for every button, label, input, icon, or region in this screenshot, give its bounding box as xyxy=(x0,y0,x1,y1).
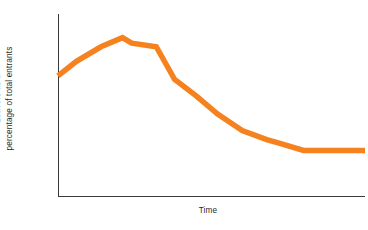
chart-container: Leavers as a percentage of total entrant… xyxy=(0,0,368,230)
x-axis-label: Time xyxy=(58,206,358,215)
data-series-line xyxy=(58,38,365,151)
chart-plot-area xyxy=(0,0,368,230)
